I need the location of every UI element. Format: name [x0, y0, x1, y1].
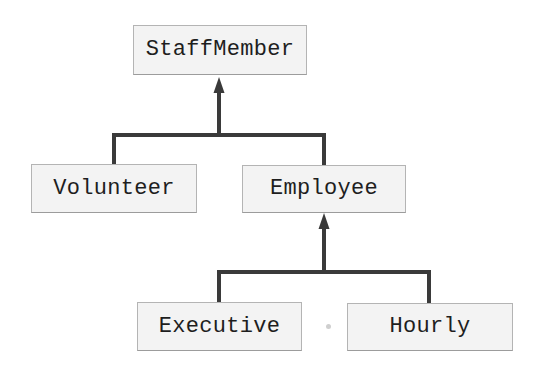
class-label: StaffMember — [146, 39, 295, 61]
class-box-staffmember: StaffMember — [133, 25, 307, 75]
class-box-hourly: Hourly — [347, 303, 513, 351]
class-label: Executive — [159, 316, 281, 338]
class-label: Volunteer — [53, 178, 175, 200]
connector-group-employee — [219, 213, 429, 303]
scan-speck — [326, 324, 331, 329]
class-box-executive: Executive — [137, 302, 302, 351]
connector-executive-hourly — [219, 272, 429, 303]
connector-group-staffmember — [114, 77, 324, 165]
class-box-employee: Employee — [242, 165, 406, 213]
class-hierarchy-diagram: StaffMember Volunteer Employee Executive… — [0, 0, 543, 371]
connector-volunteer-employee — [114, 135, 324, 165]
arrowhead-icon — [214, 77, 225, 93]
arrowhead-icon — [319, 213, 330, 229]
class-label: Hourly — [389, 316, 470, 338]
class-label: Employee — [270, 178, 378, 200]
class-box-volunteer: Volunteer — [31, 164, 197, 213]
